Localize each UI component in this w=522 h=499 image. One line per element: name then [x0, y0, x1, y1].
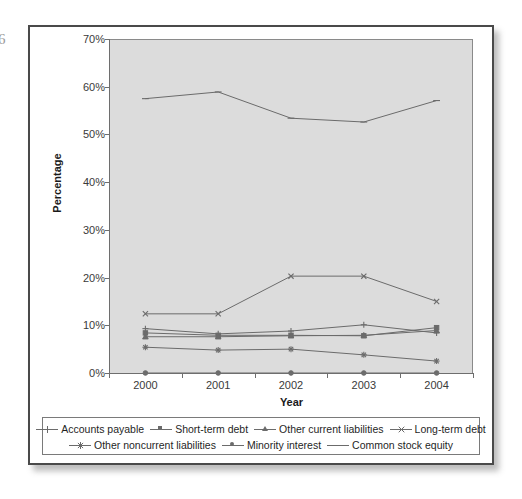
data-point-plus [361, 322, 367, 328]
legend-key-icon [222, 440, 244, 450]
y-tick-label: 70% [65, 33, 105, 45]
legend-item-long-term-debt[interactable]: Long-term debt [390, 423, 486, 435]
legend-marker [230, 442, 235, 447]
x-tick-label: 2002 [261, 379, 321, 391]
legend-row-top: Accounts payableShort-term debtOther cur… [43, 421, 479, 437]
legend-item-minority-interest[interactable]: Minority interest [222, 439, 321, 451]
y-tick-label: 20% [65, 272, 105, 284]
series-long-term-debt [143, 274, 439, 317]
x-tick-label: 2004 [407, 379, 467, 391]
x-axis-line [109, 373, 474, 374]
figure-frame: 0%10%20%30%40%50%60%70% 2000200120022003… [28, 25, 494, 465]
legend-key-icon [327, 440, 349, 450]
legend-label: Accounts payable [61, 423, 144, 435]
series-common-stock-equity [142, 92, 440, 122]
legend-marker [398, 426, 405, 433]
data-point-star [142, 344, 148, 350]
legend-marker [77, 442, 84, 449]
x-tick-mark [473, 374, 474, 378]
legend-marker [158, 426, 162, 430]
chart-legend: Accounts payableShort-term debtOther cur… [42, 417, 480, 455]
x-tick-mark [327, 374, 328, 378]
legend-label: Minority interest [247, 439, 321, 451]
legend-item-common-stock-equity[interactable]: Common stock equity [327, 439, 453, 451]
legend-key-icon [254, 424, 276, 434]
legend-key-icon [36, 424, 58, 434]
legend-item-other-current-liabilities[interactable]: Other current liabilities [254, 423, 383, 435]
y-tick-mark [105, 230, 109, 231]
legend-item-accounts-payable[interactable]: Accounts payable [36, 423, 144, 435]
page-edge-artifact: 6 [0, 30, 10, 48]
legend-key-icon [390, 424, 412, 434]
y-tick-mark [105, 39, 109, 40]
legend-item-other-noncurrent-liabilities[interactable]: Other noncurrent liabilities [69, 439, 216, 451]
y-tick-mark [105, 134, 109, 135]
data-point-star [215, 347, 221, 353]
x-tick-mark [182, 374, 183, 378]
y-tick-label: 60% [65, 81, 105, 93]
legend-label: Other current liabilities [279, 423, 383, 435]
y-tick-label: 30% [65, 224, 105, 236]
legend-marker [262, 426, 268, 431]
series-line [145, 92, 436, 122]
data-point-star [434, 358, 440, 364]
legend-label: Long-term debt [415, 423, 486, 435]
data-point-star [361, 352, 367, 358]
y-tick-mark [105, 278, 109, 279]
legend-label: Other noncurrent liabilities [94, 439, 216, 451]
y-tick-mark [105, 325, 109, 326]
x-tick-label: 2003 [334, 379, 394, 391]
y-tick-label: 40% [65, 176, 105, 188]
legend-label: Common stock equity [352, 439, 453, 451]
data-point-star [288, 346, 294, 352]
y-tick-label: 10% [65, 319, 105, 331]
x-axis-title: Year [109, 396, 474, 408]
x-tick-mark [109, 374, 110, 378]
series-other-noncurrent-liabilities [142, 344, 439, 364]
x-tick-mark [255, 374, 256, 378]
legend-key-icon [69, 440, 91, 450]
legend-key-icon [150, 424, 172, 434]
data-point-cross [434, 299, 439, 304]
y-axis-line [109, 39, 110, 374]
y-tick-label: 0% [65, 367, 105, 379]
series-line [145, 276, 436, 314]
y-tick-mark [105, 87, 109, 88]
y-tick-label: 50% [65, 128, 105, 140]
x-tick-label: 2000 [115, 379, 175, 391]
legend-item-short-term-debt[interactable]: Short-term debt [150, 423, 248, 435]
legend-label: Short-term debt [175, 423, 248, 435]
legend-marker [44, 426, 51, 433]
line-chart: 0%10%20%30%40%50%60%70% 2000200120022003… [30, 27, 492, 417]
y-tick-mark [105, 182, 109, 183]
x-tick-mark [400, 374, 401, 378]
legend-row-bottom: Other noncurrent liabilitiesMinority int… [43, 437, 479, 453]
legend-marker [335, 442, 342, 449]
x-tick-label: 2001 [188, 379, 248, 391]
y-axis-title: Percentage [51, 143, 63, 223]
